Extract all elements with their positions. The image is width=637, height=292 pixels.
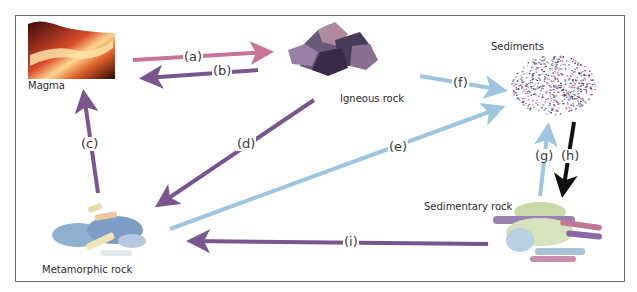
arrow-b	[145, 70, 258, 78]
metamorphic-rock-image	[52, 203, 146, 256]
magma-image	[28, 21, 115, 79]
arrow-g-label: (g)	[534, 149, 554, 163]
sedimentary-rock-label: Sedimentary rock	[424, 201, 512, 212]
magma-label: Magma	[28, 80, 65, 91]
arrow-i	[192, 241, 488, 244]
arrow-b-label: (b)	[212, 64, 232, 78]
igneous-rock-label: Igneous rock	[340, 93, 404, 104]
metamorphic-rock-label: Metamorphic rock	[42, 264, 132, 275]
arrow-e-label: (e)	[388, 140, 408, 154]
sediments-image	[511, 56, 596, 115]
arrow-d	[160, 100, 314, 204]
igneous-rock-image	[288, 22, 378, 76]
arrow-a-label: (a)	[183, 50, 203, 64]
arrow-c-label: (c)	[80, 137, 99, 151]
arrow-d-label: (d)	[236, 137, 256, 151]
arrow-i-label: (i)	[343, 235, 359, 249]
sediments-label: Sediments	[491, 41, 544, 52]
arrow-h-label: (h)	[560, 149, 580, 163]
arrow-f-label: (f)	[452, 76, 469, 90]
